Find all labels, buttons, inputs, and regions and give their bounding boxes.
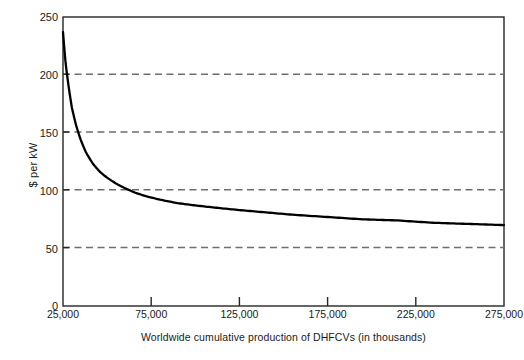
x-tick-label: 25,000	[23, 309, 103, 320]
plot-frame	[63, 17, 504, 306]
x-axis-title: Worldwide cumulative production of DHFCV…	[63, 331, 504, 343]
x-tick-label: 225,000	[376, 309, 456, 320]
chart-figure: $ per kW 250 200 150 100 50 0	[0, 0, 524, 360]
x-tick-label: 275,000	[464, 309, 524, 320]
y-tick-label: 50	[24, 244, 58, 255]
x-tick-label: 75,000	[111, 309, 191, 320]
x-tick-label: 175,000	[288, 309, 368, 320]
y-axis-tick-labels: 250 200 150 100 50 0	[22, 0, 58, 360]
x-tick-label: 125,000	[199, 309, 279, 320]
y-tick-label: 250	[24, 12, 58, 23]
y-tick-label: 100	[24, 186, 58, 197]
x-axis-tick-labels: 25,000 75,000 125,000 175,000 225,000 27…	[0, 309, 524, 325]
plot-area	[0, 0, 524, 360]
y-tick-label: 200	[24, 70, 58, 81]
y-tick-label: 150	[24, 128, 58, 139]
